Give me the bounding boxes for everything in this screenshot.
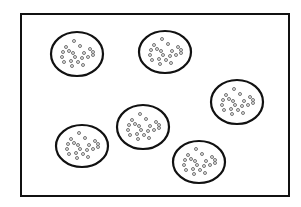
data-point	[153, 44, 156, 47]
data-point	[180, 49, 183, 52]
data-point	[92, 148, 95, 151]
data-point	[68, 153, 71, 156]
data-point	[237, 109, 240, 112]
data-point	[73, 142, 76, 145]
data-point	[147, 130, 150, 133]
data-point	[223, 109, 226, 112]
data-point	[145, 118, 148, 121]
data-point	[204, 172, 207, 175]
data-point	[76, 157, 79, 160]
data-point	[170, 62, 173, 65]
data-point	[149, 125, 152, 128]
data-point	[137, 138, 140, 141]
data-point	[140, 129, 143, 132]
data-point	[86, 149, 89, 152]
data-point	[196, 164, 199, 167]
data-point	[94, 140, 97, 143]
cluster-2	[139, 31, 191, 73]
data-point	[193, 173, 196, 176]
cluster-boundary	[56, 125, 108, 167]
data-point	[194, 160, 197, 163]
data-point	[160, 50, 163, 53]
data-point	[228, 98, 231, 101]
data-point	[92, 51, 95, 54]
data-point	[187, 154, 190, 157]
data-point	[82, 64, 85, 67]
data-point	[221, 104, 224, 107]
data-point	[205, 160, 208, 163]
cluster-group	[51, 31, 263, 183]
data-point	[79, 45, 82, 48]
data-point	[247, 104, 250, 107]
data-point	[171, 50, 174, 53]
data-point	[233, 88, 236, 91]
cluster-6	[173, 141, 225, 183]
data-point	[190, 158, 193, 161]
data-point	[70, 60, 73, 63]
data-point	[185, 169, 188, 172]
data-point	[165, 59, 168, 62]
data-point	[242, 112, 245, 115]
data-point	[159, 63, 162, 66]
data-point	[201, 153, 204, 156]
data-point	[203, 165, 206, 168]
cluster-boundary	[211, 80, 263, 124]
data-point	[75, 152, 78, 155]
data-point	[199, 169, 202, 172]
data-point	[72, 52, 75, 55]
data-point	[241, 105, 244, 108]
data-point	[175, 54, 178, 57]
data-point	[136, 133, 139, 136]
data-point	[230, 108, 233, 111]
data-point	[82, 153, 85, 156]
cluster-4	[117, 105, 169, 149]
data-point	[167, 43, 170, 46]
data-point	[195, 148, 198, 151]
data-point	[209, 164, 212, 167]
cluster-boundary	[139, 31, 191, 73]
data-point	[249, 96, 252, 99]
data-point	[63, 61, 66, 64]
data-point	[222, 99, 225, 102]
data-point	[62, 51, 65, 54]
cluster-boundary	[51, 32, 103, 76]
data-point	[87, 156, 90, 159]
data-point	[92, 54, 95, 57]
data-point	[70, 138, 73, 141]
data-point	[183, 164, 186, 167]
data-point	[83, 52, 86, 55]
data-point	[67, 143, 70, 146]
data-point	[134, 123, 137, 126]
data-point	[192, 168, 195, 171]
data-point	[153, 129, 156, 132]
cluster-3	[211, 80, 263, 124]
data-point	[65, 46, 68, 49]
data-point	[97, 146, 100, 149]
data-point	[77, 144, 80, 147]
data-point	[184, 159, 187, 162]
data-point	[243, 100, 246, 103]
data-point	[151, 59, 154, 62]
data-point	[74, 56, 77, 59]
data-point	[127, 129, 130, 132]
cluster-boundary	[173, 141, 225, 183]
data-point	[161, 38, 164, 41]
data-point	[177, 46, 180, 49]
data-point	[239, 93, 242, 96]
data-point	[61, 56, 64, 59]
data-point	[232, 100, 235, 103]
data-point	[131, 119, 134, 122]
data-point	[79, 148, 82, 151]
data-point	[68, 50, 71, 53]
data-point	[158, 58, 161, 61]
data-point	[71, 65, 74, 68]
data-point	[78, 132, 81, 135]
data-point	[129, 134, 132, 137]
data-point	[87, 56, 90, 59]
diagram-canvas	[0, 0, 301, 207]
data-point	[73, 40, 76, 43]
data-point	[66, 148, 69, 151]
data-point	[156, 48, 159, 51]
data-point	[231, 113, 234, 116]
data-point	[84, 137, 87, 140]
